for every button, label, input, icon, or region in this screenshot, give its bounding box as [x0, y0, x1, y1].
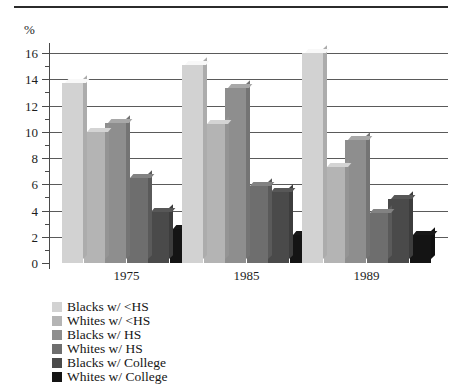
bar-side-face: [323, 45, 327, 259]
bar-face: [302, 53, 323, 263]
legend-item: Blacks w/ <HS: [52, 300, 167, 314]
y-axis-line: [49, 43, 50, 269]
bar-top-face: [108, 119, 132, 123]
y-tick-label-2: 2: [32, 230, 39, 243]
y-tick-12: [42, 106, 50, 107]
y-minor-tick-1: [45, 250, 50, 251]
legend-item: Blacks w/ College: [52, 356, 167, 370]
bar-top-face: [250, 182, 274, 186]
y-minor-tick-3: [45, 224, 50, 225]
bar-top-face: [391, 195, 415, 199]
legend-label: Whites w/ <HS: [67, 314, 150, 328]
legend-label: Blacks w/ College: [67, 356, 166, 370]
y-minor-tick-9: [45, 145, 50, 146]
y-tick-8: [42, 158, 50, 159]
legend-label: Whites w/ College: [67, 370, 167, 384]
legend-swatch-icon: [52, 372, 62, 382]
x-axis-label-1989: 1989: [297, 268, 437, 284]
bar-side-face: [388, 205, 392, 259]
bar-top-face: [413, 231, 437, 235]
bar-top-face: [65, 79, 89, 83]
bar-side-face: [225, 116, 229, 259]
legend-swatch-icon: [52, 302, 62, 312]
bar-side-face: [126, 115, 130, 259]
bar-group-1975: [62, 53, 191, 263]
y-tick-0: [42, 263, 50, 264]
y-tick-label-8: 8: [32, 152, 39, 165]
y-tick-6: [42, 184, 50, 185]
y-minor-tick-11: [45, 119, 50, 120]
legend-swatch-icon: [52, 344, 62, 354]
bar-group-1985: [182, 53, 311, 263]
bar-side-face: [409, 191, 413, 259]
y-tick-label-16: 16: [25, 47, 38, 60]
bar-top-face: [327, 163, 351, 167]
bar-top-face: [228, 84, 252, 88]
legend-swatch-icon: [52, 316, 62, 326]
legend-label: Blacks w/ <HS: [67, 300, 149, 314]
y-tick-2: [42, 237, 50, 238]
y-tick-label-6: 6: [32, 178, 39, 191]
bar-side-face: [268, 178, 272, 259]
bar-face: [182, 65, 203, 263]
bar-side-face: [83, 75, 87, 259]
y-axis-unit-label: %: [24, 22, 35, 38]
legend-item: Whites w/ College: [52, 370, 167, 384]
bar-side-face: [289, 184, 293, 259]
legend-item: Whites w/ HS: [52, 342, 167, 356]
bar: [62, 83, 83, 263]
y-tick-10: [42, 132, 50, 133]
bar-top-face: [370, 209, 394, 213]
legend-label: Whites w/ HS: [67, 342, 143, 356]
y-tick-16: [42, 53, 50, 54]
bar-top-face: [185, 61, 209, 65]
bar-side-face: [169, 204, 173, 259]
top-divider-rule: [14, 6, 448, 8]
x-axis-label-1975: 1975: [57, 268, 197, 284]
bar-top-face: [87, 128, 111, 132]
y-tick-4: [42, 211, 50, 212]
bar: [182, 65, 203, 263]
x-axis-label-1985: 1985: [177, 268, 317, 284]
bar-side-face: [246, 81, 250, 259]
bar-group-1989: [302, 53, 431, 263]
y-tick-label-14: 14: [25, 73, 38, 86]
legend-item: Whites w/ <HS: [52, 314, 167, 328]
legend-swatch-icon: [52, 358, 62, 368]
bar-face: [62, 83, 83, 263]
y-minor-tick-13: [45, 92, 50, 93]
bar-chart-figure: % 1614121086420 Blacks w/ <HSWhites w/ <…: [0, 0, 461, 391]
y-minor-tick-15: [45, 66, 50, 67]
bar-side-face: [366, 132, 370, 259]
bar-top-face: [130, 174, 154, 178]
y-tick-label-4: 4: [32, 204, 39, 217]
chart-legend: Blacks w/ <HSWhites w/ <HSBlacks w/ HSWh…: [52, 300, 167, 384]
y-minor-tick-5: [45, 197, 50, 198]
bar-top-face: [207, 120, 231, 124]
legend-swatch-icon: [52, 330, 62, 340]
bar-side-face: [203, 57, 207, 259]
bar-top-face: [305, 49, 329, 53]
bar-side-face: [105, 124, 109, 259]
y-tick-14: [42, 79, 50, 80]
bar: [302, 53, 323, 263]
y-tick-label-0: 0: [32, 257, 39, 270]
bar-top-face: [151, 208, 175, 212]
y-minor-tick-7: [45, 171, 50, 172]
bar-side-face: [148, 170, 152, 259]
legend-label: Blacks w/ HS: [67, 328, 141, 342]
y-tick-label-10: 10: [25, 125, 38, 138]
bar-side-face: [345, 159, 349, 259]
legend-item: Blacks w/ HS: [52, 328, 167, 342]
bar-top-face: [271, 188, 295, 192]
y-tick-label-12: 12: [25, 99, 38, 112]
bar-top-face: [348, 136, 372, 140]
plot-area: 1614121086420: [49, 53, 448, 263]
